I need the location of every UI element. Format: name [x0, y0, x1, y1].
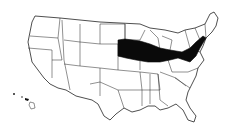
hawaii-inset	[13, 93, 35, 109]
us-map	[0, 0, 231, 137]
